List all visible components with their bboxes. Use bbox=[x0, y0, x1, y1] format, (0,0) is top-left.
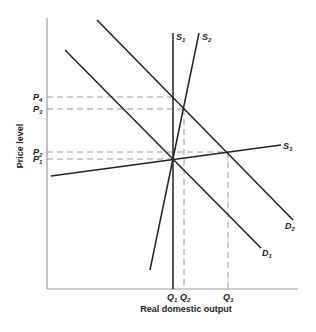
label-q2: Q2 bbox=[180, 292, 191, 303]
y-axis-title: Price level bbox=[15, 124, 25, 169]
label-p4: P4 bbox=[33, 92, 43, 103]
label-q1: Q1 bbox=[167, 292, 178, 303]
curve-d1 bbox=[65, 50, 261, 248]
label-d1: D1 bbox=[262, 248, 273, 259]
label-s3: S3 bbox=[283, 141, 293, 152]
label-q3: Q3 bbox=[223, 292, 234, 303]
chart: P4 P3 P2 P1 Q1 Q2 Q3 S1 S2 S3 D1 D2 Real… bbox=[0, 0, 316, 332]
label-s1: S1 bbox=[176, 32, 186, 43]
x-axis-title: Real domestic output bbox=[140, 304, 232, 314]
label-d2: D2 bbox=[285, 221, 296, 232]
curve-s3 bbox=[51, 145, 281, 176]
label-p3: P3 bbox=[33, 104, 43, 115]
label-s2: S2 bbox=[202, 32, 212, 43]
